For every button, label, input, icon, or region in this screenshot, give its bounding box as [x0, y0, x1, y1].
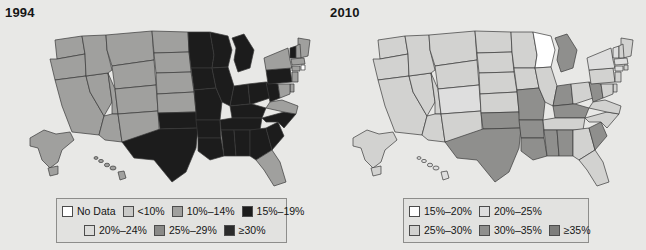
state-vt	[290, 46, 296, 58]
legend-row: 25%–30% 30%–35% ≥35%	[409, 221, 583, 240]
state-pa	[589, 68, 615, 84]
legend-label: 25%–30%	[424, 225, 472, 236]
legend-swatch	[154, 225, 165, 236]
state-ia	[191, 68, 216, 90]
state-ks	[157, 92, 196, 113]
map-panel-2010: 2010	[323, 0, 646, 250]
state-nd	[152, 31, 189, 53]
state-ar	[196, 120, 221, 138]
legend-row: No Data <10% 10%–14% 15%–19%	[62, 202, 281, 221]
legend-1994: No Data <10% 10%–14% 15%–19% 20%–24%	[56, 198, 287, 243]
legend-item-30-plus[interactable]: ≥30%	[224, 225, 266, 236]
state-va	[589, 100, 621, 114]
state-la	[198, 138, 224, 160]
state-mi	[555, 34, 577, 72]
state-ma	[614, 58, 628, 65]
map-panel-1994: 1994	[0, 0, 323, 250]
state-hi	[94, 157, 126, 180]
state-ia	[514, 68, 539, 90]
legend-label: ≥30%	[239, 225, 266, 236]
state-ct	[615, 66, 623, 71]
legend-item-no-data[interactable]: No Data	[62, 206, 116, 217]
state-nj	[292, 72, 298, 82]
legend-row: 20%–24% 25%–29% ≥30%	[62, 221, 281, 240]
legend-swatch	[84, 225, 95, 236]
legend-swatch	[409, 206, 420, 217]
legend-item-25-29[interactable]: 25%–29%	[154, 225, 217, 236]
state-sd	[154, 52, 191, 73]
legend-item-15-20[interactable]: 15%–20%	[409, 206, 472, 217]
state-ak-tail	[371, 166, 381, 176]
state-md	[601, 84, 613, 98]
state-al	[234, 130, 250, 156]
state-ma	[291, 58, 305, 65]
legend-swatch	[123, 206, 134, 217]
state-co	[115, 85, 158, 114]
legend-swatch	[224, 225, 235, 236]
legend-label: <10%	[138, 206, 165, 217]
state-wi	[533, 32, 555, 68]
legend-item-10-14[interactable]: 10%–14%	[172, 206, 235, 217]
legend-swatch	[242, 206, 253, 217]
state-de	[290, 84, 294, 92]
legend-item-20-24[interactable]: 20%–24%	[84, 225, 147, 236]
legend-row: 15%–20% 20%–25%	[409, 202, 583, 221]
legend-label: 20%–24%	[99, 225, 147, 236]
state-ri	[624, 65, 628, 70]
state-ar	[519, 120, 544, 138]
legend-item-under-10[interactable]: <10%	[123, 206, 165, 217]
legend-label: 10%–14%	[187, 206, 235, 217]
state-ky	[230, 104, 266, 118]
state-nj	[615, 72, 621, 82]
state-ok	[481, 112, 521, 129]
state-ny	[264, 48, 292, 70]
legend-item-35-plus[interactable]: ≥35%	[549, 225, 591, 236]
state-ak	[353, 130, 397, 168]
legend-swatch	[62, 206, 73, 217]
legend-item-15-19[interactable]: 15%–19%	[242, 206, 305, 217]
state-ak	[30, 130, 74, 168]
state-or	[373, 54, 409, 80]
state-ny	[587, 48, 615, 70]
state-ms	[221, 130, 236, 156]
legend-swatch	[479, 206, 490, 217]
state-wi	[210, 32, 232, 68]
state-mn	[188, 32, 214, 68]
legend-2010: 15%–20% 20%–25% 25%–30% 30%–35% ≥35%	[403, 198, 589, 243]
state-or	[50, 54, 86, 80]
legend-label: 30%–35%	[494, 225, 542, 236]
state-pa	[266, 68, 292, 84]
legend-label: 25%–29%	[169, 225, 217, 236]
legend-item-20-25[interactable]: 20%–25%	[479, 206, 542, 217]
state-mi	[232, 34, 254, 72]
legend-label: 15%–19%	[257, 206, 305, 217]
state-ak-tail	[48, 166, 58, 176]
legend-label: No Data	[77, 206, 116, 217]
state-tn	[543, 118, 585, 130]
state-nh	[296, 44, 301, 58]
legend-label: 20%–25%	[494, 206, 542, 217]
state-hi	[417, 157, 449, 180]
state-la	[521, 138, 547, 160]
state-va	[266, 100, 298, 114]
state-sd	[477, 52, 514, 73]
state-vt	[613, 46, 619, 58]
legend-label: ≥35%	[564, 225, 591, 236]
state-ct	[292, 66, 300, 71]
state-ms	[544, 130, 559, 156]
legend-swatch	[549, 225, 560, 236]
state-nh	[619, 44, 624, 58]
state-tn	[220, 118, 262, 130]
state-mn	[511, 32, 537, 68]
legend-swatch	[172, 206, 183, 217]
legend-item-30-35[interactable]: 30%–35%	[479, 225, 542, 236]
legend-swatch	[479, 225, 490, 236]
state-ok	[158, 112, 198, 129]
legend-item-25-30[interactable]: 25%–30%	[409, 225, 472, 236]
state-co	[438, 85, 481, 114]
state-md	[278, 84, 290, 98]
state-ky	[553, 104, 589, 118]
choropleth-map-2010	[323, 10, 646, 190]
state-de	[613, 84, 617, 92]
state-ne	[479, 72, 517, 94]
